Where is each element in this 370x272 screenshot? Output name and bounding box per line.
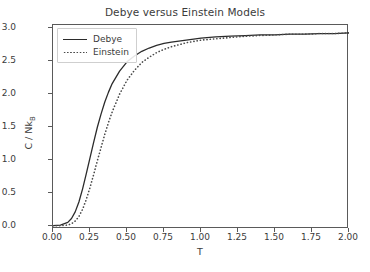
- y-axis-tick-label: 3.0: [0, 22, 16, 32]
- x-axis-label: T: [52, 246, 348, 257]
- y-axis-tick-mark: [48, 225, 52, 226]
- legend-item-einstein: Einstein: [63, 46, 129, 58]
- legend-item-debye: Debye: [63, 33, 129, 45]
- y-axis-tick-label: 0.0: [0, 220, 16, 230]
- chart-figure: Debye versus Einstein Models Debye Einst…: [0, 0, 370, 272]
- legend-label-debye: Debye: [93, 34, 122, 44]
- y-axis-tick-mark: [48, 27, 52, 28]
- y-axis-tick-label: 0.5: [0, 187, 16, 197]
- y-axis-tick-mark: [48, 192, 52, 193]
- chart-legend: Debye Einstein: [57, 28, 137, 63]
- legend-swatch-solid-line-icon: [63, 35, 87, 44]
- y-axis-tick-label: 2.5: [0, 55, 16, 65]
- y-axis-label-base: C / Nk: [23, 121, 34, 149]
- y-axis-tick-label: 2.0: [0, 88, 16, 98]
- y-axis-tick-mark: [48, 159, 52, 160]
- x-axis-tick-label: 2.00: [325, 232, 370, 242]
- chart-title: Debye versus Einstein Models: [0, 6, 370, 18]
- y-axis-tick-mark: [48, 60, 52, 61]
- y-axis-tick-mark: [48, 126, 52, 127]
- y-axis-label-subscript: B: [29, 116, 37, 121]
- y-axis-tick-label: 1.5: [0, 121, 16, 131]
- plot-area: Debye Einstein: [52, 24, 348, 228]
- legend-swatch-dotted-line-icon: [63, 48, 87, 57]
- y-axis-tick-label: 1.0: [0, 154, 16, 164]
- y-axis-tick-mark: [48, 93, 52, 94]
- legend-label-einstein: Einstein: [93, 47, 129, 57]
- y-axis-label: C / NkB: [23, 93, 37, 173]
